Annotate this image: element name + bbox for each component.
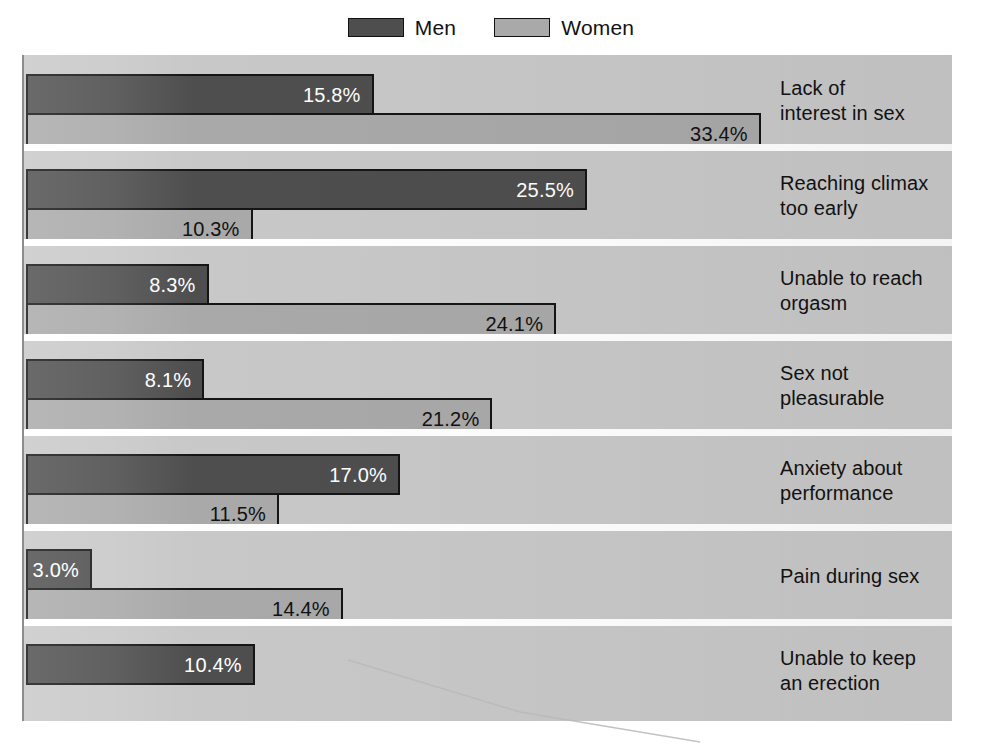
group-separator (24, 334, 952, 341)
legend-swatch-men-icon (348, 18, 404, 37)
bar-value-label: 17.0% (329, 465, 398, 485)
category-label-line: an erection (780, 671, 952, 696)
category-label-line: performance (780, 481, 952, 506)
legend-swatch-women-icon (494, 18, 550, 37)
legend-label-women: Women (561, 17, 634, 38)
legend-label-men: Men (415, 17, 456, 38)
bar-men: 17.0% (26, 454, 400, 495)
bar-men: 3.0% (26, 549, 92, 590)
bar-value-label: 21.2% (422, 409, 491, 429)
category-label-line: pleasurable (780, 386, 952, 411)
bar-men: 25.5% (26, 169, 587, 210)
chart-page: Men Women 15.8%33.4%Lack ofinterest in s… (0, 0, 982, 745)
bar-men: 15.8% (26, 74, 374, 115)
bar-value-label: 33.4% (690, 124, 759, 144)
bar-value-label: 24.1% (485, 314, 554, 334)
category-label-line: orgasm (780, 291, 952, 316)
category-label-line: too early (780, 196, 952, 221)
category-label-line: Unable to keep (780, 646, 952, 671)
bar-value-label: 10.3% (182, 219, 251, 239)
group-separator (24, 144, 952, 151)
category-label: Unable to reachorgasm (780, 266, 952, 316)
bar-value-label: 8.1% (145, 370, 202, 390)
category-label-line: Unable to reach (780, 266, 952, 291)
category-label-line: Reaching climax (780, 171, 952, 196)
bar-value-label: 8.3% (149, 275, 206, 295)
category-label: Reaching climaxtoo early (780, 171, 952, 221)
category-label: Pain during sex (780, 564, 952, 589)
bar-value-label: 11.5% (210, 504, 277, 524)
category-label-line: Pain during sex (780, 564, 952, 589)
bar-value-label: 10.4% (184, 655, 253, 675)
category-label: Sex notpleasurable (780, 361, 952, 411)
legend-entry-men: Men (348, 17, 456, 38)
category-label-line: interest in sex (780, 101, 952, 126)
bar-men: 8.1% (26, 359, 204, 400)
category-label-line: Anxiety about (780, 456, 952, 481)
category-label: Unable to keepan erection (780, 646, 952, 696)
group-separator (24, 619, 952, 626)
bar-value-label: 15.8% (303, 85, 372, 105)
bar-men: 10.4% (26, 644, 255, 685)
category-label-line: Sex not (780, 361, 952, 386)
category-label: Anxiety aboutperformance (780, 456, 952, 506)
bar-value-label: 3.0% (33, 560, 90, 580)
chart-legend: Men Women (0, 10, 982, 44)
bar-men: 8.3% (26, 264, 209, 305)
group-separator (24, 239, 952, 246)
category-label: Lack ofinterest in sex (780, 76, 952, 126)
legend-entry-women: Women (494, 17, 634, 38)
chart-plot-area: 15.8%33.4%Lack ofinterest in sex25.5%10.… (22, 55, 952, 721)
group-separator (24, 524, 952, 531)
bar-value-label: 14.4% (272, 599, 341, 619)
bar-value-label: 25.5% (516, 180, 585, 200)
group-separator (24, 429, 952, 436)
category-label-line: Lack of (780, 76, 952, 101)
